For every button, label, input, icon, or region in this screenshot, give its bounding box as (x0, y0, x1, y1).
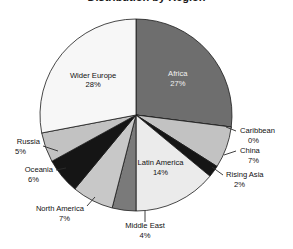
slice-label-middle-east: Middle East (125, 221, 166, 230)
slice-percent-oceania: 6% (28, 175, 39, 184)
chart-title-strip: Distribution by Region (0, 0, 293, 9)
slice-percent-russia: 5% (15, 147, 26, 156)
slice-percent-rising-asia: 2% (234, 180, 245, 189)
slice-label-north-america: North America (36, 204, 85, 213)
slice-percent-latin-america: 14% (153, 168, 168, 177)
slice-label-wider-europe: Wider Europe (70, 71, 116, 80)
pie-slices-group (40, 19, 232, 211)
slice-label-caribbean: Caribbean (240, 126, 275, 135)
slice-label-africa: Africa (168, 69, 188, 78)
slice-label-oceania: Oceania (25, 165, 54, 174)
chart-title: Distribution by Region (88, 0, 206, 3)
slice-percent-caribbean: 0% (248, 136, 259, 145)
pie-chart-canvas: Africa27%Caribbean0%China7%Rising Asia2%… (0, 0, 293, 249)
slice-percent-africa: 27% (170, 79, 185, 88)
slice-percent-china: 7% (248, 156, 259, 165)
slice-percent-north-america: 7% (59, 214, 70, 223)
slice-label-china: China (240, 146, 261, 155)
slice-percent-middle-east: 4% (140, 231, 151, 240)
pie-chart-figure: Distribution by Region Africa27%Caribbea… (0, 0, 293, 249)
slice-label-latin-america: Latin America (137, 158, 184, 167)
slice-label-rising-asia: Rising Asia (226, 170, 264, 179)
slice-percent-wider-europe: 28% (85, 80, 100, 89)
slice-label-russia: Russia (17, 137, 41, 146)
leader-line-china (224, 151, 236, 155)
